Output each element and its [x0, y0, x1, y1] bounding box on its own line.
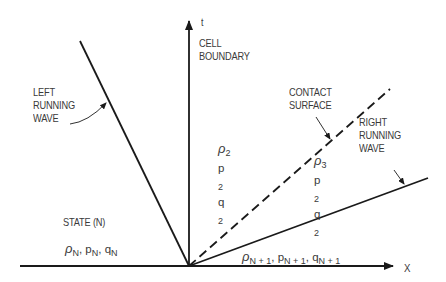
state-n-variables: ρN, pN, qN	[65, 241, 118, 261]
q-subscript: 2	[314, 228, 319, 238]
left-wave-leader	[70, 103, 106, 124]
region-2-q: q2	[218, 195, 230, 229]
cell-boundary-line1: CELL	[199, 37, 250, 50]
q-subscript: N + 1	[319, 256, 341, 266]
right-wave-leader	[394, 170, 404, 184]
left-wave-line3: WAVE	[33, 112, 75, 125]
p-subscript: 2	[218, 182, 223, 192]
q-symbol: q	[218, 195, 230, 210]
rho-subscript: 2	[225, 148, 230, 158]
separator: ,	[98, 243, 101, 255]
left-wave-line1: LEFT	[33, 86, 75, 99]
region-2-p: p2	[218, 161, 230, 195]
state-n-plus-1-variables: ρN + 1, pN + 1, qN + 1	[242, 249, 340, 269]
cell-boundary-label: CELL BOUNDARY	[199, 37, 250, 63]
left-wave-line2: RUNNING	[33, 99, 75, 112]
contact-surface-label: CONTACT SURFACE	[289, 86, 332, 112]
contact-surface-line2: SURFACE	[289, 99, 332, 112]
separator: ,	[271, 251, 274, 263]
region-3-variables: ρ3 p2 q2	[314, 153, 326, 241]
left-running-wave-label: LEFT RUNNING WAVE	[33, 86, 75, 125]
separator: ,	[306, 251, 309, 263]
right-wave-line2: RUNNING	[359, 129, 401, 142]
p-subscript: N + 1	[284, 256, 306, 266]
separator: ,	[79, 243, 82, 255]
rho-subscript: N + 1	[249, 256, 271, 266]
contact-surface-line1: CONTACT	[289, 86, 332, 99]
right-wave-line3: WAVE	[359, 142, 401, 155]
region-2-rho: ρ2	[218, 141, 230, 161]
p-symbol: p	[218, 161, 230, 176]
contact-surface-leader	[316, 117, 330, 139]
cell-boundary-line2: BOUNDARY	[199, 50, 250, 63]
state-n-title: STATE (N)	[63, 216, 105, 229]
p-symbol: p	[314, 173, 326, 188]
rho-subscript: 3	[321, 160, 326, 170]
region-3-rho: ρ3	[314, 153, 326, 173]
q-subscript: 2	[218, 216, 223, 226]
region-3-q: q2	[314, 207, 326, 241]
p-subscript: 2	[314, 194, 319, 204]
left-running-wave-line	[80, 41, 189, 266]
right-running-wave-label: RIGHT RUNNING WAVE	[359, 116, 401, 155]
t-axis-label: t	[201, 16, 203, 29]
q-symbol: q	[314, 207, 326, 222]
region-2-variables: ρ2 p2 q2	[218, 141, 230, 229]
right-wave-line1: RIGHT	[359, 116, 401, 129]
q-subscript: N	[111, 248, 118, 258]
region-3-p: p2	[314, 173, 326, 207]
x-axis-label: X	[404, 262, 410, 275]
